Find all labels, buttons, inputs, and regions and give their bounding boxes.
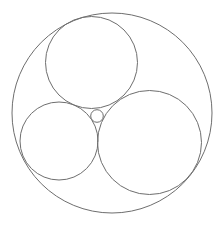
right-circle <box>98 91 202 195</box>
left-circle <box>20 102 98 180</box>
top-circle <box>46 17 138 109</box>
apollonian-diagram <box>0 0 219 225</box>
inner-small-circle <box>91 110 104 123</box>
circles-group <box>12 13 212 213</box>
